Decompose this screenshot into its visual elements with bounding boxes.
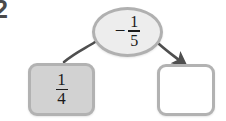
minus-sign: −: [115, 21, 126, 40]
operator-fraction-numerator: 1: [129, 14, 139, 29]
left-box-fraction-denominator: 4: [56, 91, 67, 107]
worksheet-canvas: 2 − 1 5 1 4: [0, 0, 226, 121]
value-box-left[interactable]: 1 4: [28, 63, 95, 116]
operator-ellipse[interactable]: − 1 5: [92, 7, 163, 57]
operator-fraction: 1 5: [128, 14, 140, 48]
left-box-fraction: 1 4: [56, 72, 68, 108]
left-box-fraction-numerator: 1: [56, 72, 67, 88]
arrow-to-right-box: [159, 44, 184, 64]
operator-expression: − 1 5: [115, 14, 141, 48]
arrow-to-left-box: [64, 42, 95, 62]
value-box-right[interactable]: [157, 64, 215, 116]
operator-fraction-denominator: 5: [129, 33, 139, 48]
